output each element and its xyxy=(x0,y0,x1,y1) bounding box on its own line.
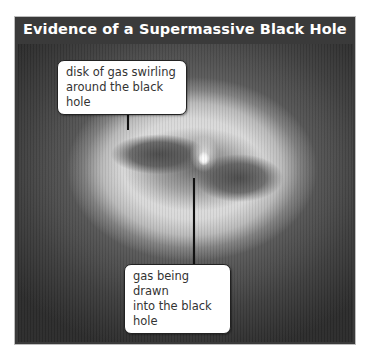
callout-core-line-2: into the black hole xyxy=(133,299,222,329)
callout-disk: disk of gas swirling around the black ho… xyxy=(57,60,187,115)
callout-disk-line-2: around the black hole xyxy=(66,80,178,110)
callout-core-line-1: gas being drawn xyxy=(133,269,222,299)
callout-core: gas being drawn into the black hole xyxy=(124,264,231,334)
figure-title: Evidence of a Supermassive Black Hole xyxy=(23,21,347,37)
core-leader-line xyxy=(193,178,195,266)
callout-disk-line-1: disk of gas swirling xyxy=(66,65,178,80)
